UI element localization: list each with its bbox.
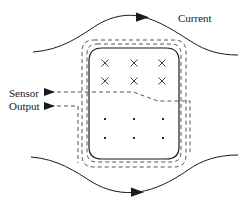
field-markers-into-page [102, 60, 166, 85]
dot-marker-icon [104, 118, 106, 120]
sensor-leader-arrowhead-icon [44, 88, 55, 96]
dot-marker-icon [104, 137, 106, 139]
dot-marker-icon [133, 118, 135, 120]
dot-marker-icon [133, 137, 135, 139]
current-label: Current [178, 13, 212, 24]
x-marker-icon [131, 78, 138, 85]
sensor-leader-line [50, 92, 190, 152]
current-curve-top-left [33, 15, 143, 52]
x-marker-icon [102, 60, 109, 67]
field-markers-out-of-page [104, 118, 164, 139]
sensor-shield-inner-outline [87, 44, 181, 162]
output-label: Output [9, 101, 40, 112]
dot-marker-icon [162, 137, 164, 139]
current-sensor-diagram: Current Sensor Output [0, 0, 249, 208]
sensor-label: Sensor [9, 88, 39, 99]
output-leader-line [50, 106, 78, 163]
current-arrowhead-top-icon [136, 13, 149, 22]
x-marker-icon [131, 60, 138, 67]
sensor-body-outline [89, 48, 179, 159]
x-marker-icon [159, 60, 166, 67]
output-leader-arrowhead-icon [44, 102, 55, 110]
sensor-shield-outline [82, 40, 186, 167]
x-marker-icon [102, 78, 109, 85]
current-arrowhead-bottom-icon [131, 188, 144, 197]
x-marker-icon [159, 78, 166, 85]
current-curve-bottom-right [138, 155, 238, 192]
dot-marker-icon [162, 118, 164, 120]
current-streamlines [31, 15, 238, 192]
